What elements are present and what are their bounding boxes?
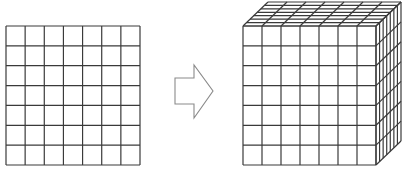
cube-grid	[243, 2, 401, 165]
diagram-svg	[0, 0, 408, 169]
diagram-canvas	[0, 0, 408, 169]
right-arrow-icon	[175, 65, 213, 118]
cube-front-face	[243, 26, 376, 165]
square-grid	[6, 26, 140, 165]
cube-side-face	[376, 2, 401, 165]
cube-top-face	[243, 2, 401, 26]
